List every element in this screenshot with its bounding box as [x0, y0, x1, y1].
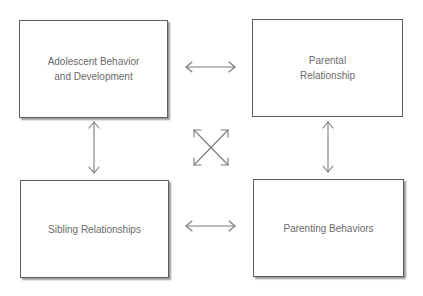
arrows-layer [0, 0, 423, 296]
double-arrow-icon-parental-parenting [323, 122, 333, 172]
double-arrow-icon-adolescent-sibling [89, 122, 99, 173]
double-arrow-icon-adolescent-parental [186, 62, 235, 72]
double-arrow-icon-sibling-parenting [186, 221, 235, 231]
